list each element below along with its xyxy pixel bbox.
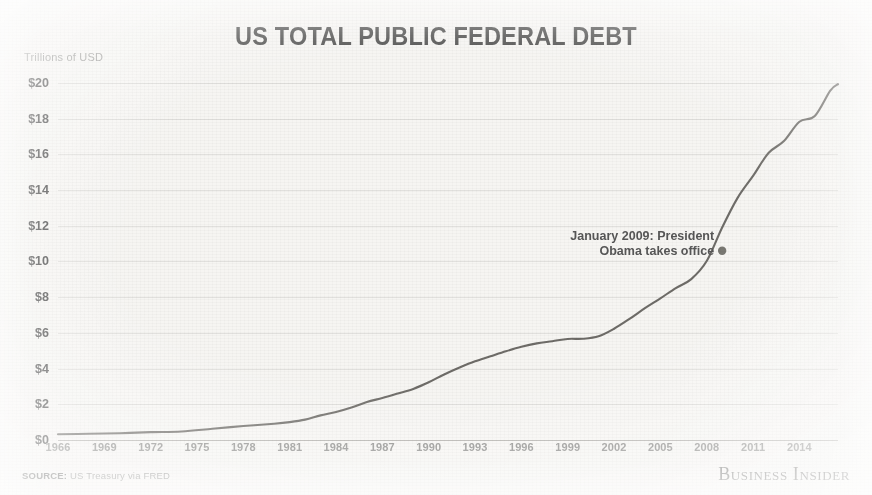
x-axis-tick-label: 2014 (787, 441, 812, 453)
y-axis-tick-label: $14 (28, 183, 49, 197)
y-axis-tick-label: $10 (28, 254, 49, 268)
chart-title: US TOTAL PUBLIC FEDERAL DEBT (26, 22, 846, 51)
plot-area: $0$2$4$6$8$10$12$14$16$18$20 19661969197… (58, 65, 838, 440)
x-axis-tick-label: 1969 (92, 441, 117, 453)
y-axis-tick-label: $12 (28, 219, 49, 233)
y-axis-unit-label: Trillions of USD (24, 51, 103, 63)
y-axis-tick-label: $8 (35, 290, 49, 304)
x-axis-tick-label: 1999 (555, 441, 580, 453)
x-axis-tick-label: 2005 (648, 441, 673, 453)
annotation-line-1: January 2009: President (492, 229, 714, 244)
x-axis-tick-label: 1984 (324, 441, 349, 453)
source-credit: SOURCE: US Treasury via FRED (22, 470, 170, 481)
x-axis-tick-label: 1993 (463, 441, 488, 453)
y-axis-tick-label: $2 (35, 397, 49, 411)
x-axis-tick-label: 2008 (694, 441, 719, 453)
obama-annotation: January 2009: President Obama takes offi… (492, 229, 714, 259)
x-axis-tick-label: 1972 (138, 441, 163, 453)
gridline (58, 440, 838, 441)
business-insider-logo: Business Insider (718, 464, 850, 485)
chart-page: US TOTAL PUBLIC FEDERAL DEBT Trillions o… (0, 0, 872, 495)
y-axis-tick-label: $4 (35, 362, 49, 376)
x-axis-tick-label: 2011 (741, 441, 765, 453)
debt-line-series (58, 65, 838, 440)
x-axis-tick-label: 1975 (185, 441, 210, 453)
annotation-line-2: Obama takes office (492, 244, 714, 259)
x-axis-tick-label: 2002 (602, 441, 627, 453)
x-axis-tick-label: 1990 (416, 441, 441, 453)
x-axis-tick-label: 1966 (46, 441, 71, 453)
source-text: US Treasury via FRED (70, 470, 170, 481)
x-axis-tick-label: 1978 (231, 441, 256, 453)
x-axis-tick-label: 1996 (509, 441, 534, 453)
x-axis-tick-label: 1987 (370, 441, 395, 453)
y-axis-tick-label: $6 (35, 326, 49, 340)
x-axis-tick-label: 1981 (277, 441, 302, 453)
y-axis-tick-label: $18 (28, 112, 49, 126)
y-axis-tick-label: $16 (28, 147, 49, 161)
y-axis-tick-label: $20 (28, 76, 49, 90)
source-label: SOURCE: (22, 470, 67, 481)
obama-marker-dot (718, 247, 726, 255)
